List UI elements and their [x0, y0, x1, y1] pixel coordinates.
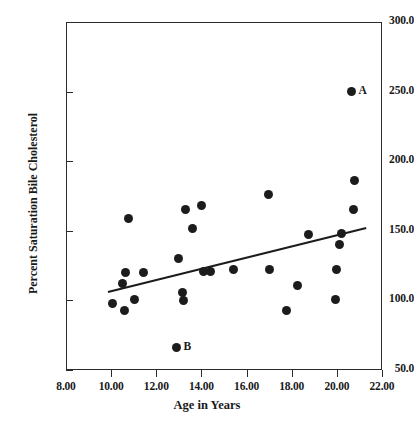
x-axis-tick [382, 370, 383, 377]
data-point [179, 296, 188, 305]
y-axis-tick [66, 22, 73, 23]
data-point [130, 295, 139, 304]
y-axis-tick [66, 300, 73, 301]
x-axis-tick [111, 370, 112, 377]
data-point [188, 224, 197, 233]
scatter-plot-figure: 50.0100.0150.0200.0250.0300.0 8.0010.001… [0, 0, 414, 424]
data-point [335, 240, 344, 249]
y-axis-tick [66, 370, 73, 371]
data-point [206, 267, 215, 276]
y-axis-tick-label: 100.0 [358, 292, 414, 304]
data-point [337, 229, 346, 238]
data-point [282, 306, 291, 315]
y-axis-title: Percent Saturation Bile Cholesterol [26, 94, 41, 314]
x-axis-tick [201, 370, 202, 377]
y-axis-tick-label: 200.0 [358, 153, 414, 165]
x-axis-tick-label: 22.00 [352, 380, 412, 392]
x-axis-title: Age in Years [0, 398, 414, 413]
y-axis-tick-label: 150.0 [358, 223, 414, 235]
data-point-label-a: A [359, 84, 367, 96]
data-point [229, 265, 238, 274]
y-axis-tick-label: 50.0 [358, 362, 414, 374]
data-point [293, 281, 302, 290]
data-point [331, 295, 340, 304]
x-axis-tick [247, 370, 248, 377]
data-point [265, 265, 274, 274]
x-axis-tick [156, 370, 157, 377]
data-point [264, 190, 273, 199]
x-axis-tick [337, 370, 338, 377]
y-axis-tick [66, 231, 73, 232]
data-point-label-b: B [184, 340, 192, 352]
y-axis-tick-label: 300.0 [358, 14, 414, 26]
data-point [120, 306, 129, 315]
x-axis-tick [292, 370, 293, 377]
plot-area-frame [66, 22, 382, 370]
y-axis-tick [66, 161, 73, 162]
data-point [108, 299, 117, 308]
data-point [124, 214, 133, 223]
y-axis-tick [66, 92, 73, 93]
